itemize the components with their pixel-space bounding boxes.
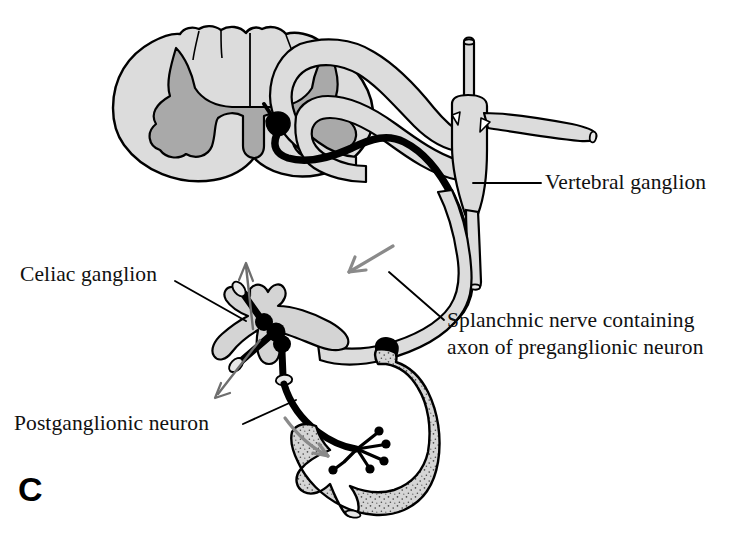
stomach-body [291, 345, 439, 517]
bouton-5 [328, 465, 337, 474]
trunk-upper-cut-end [464, 39, 474, 44]
autonomic-pathway-figure: Vertebral ganglion Celiac ganglion Splan… [0, 0, 739, 534]
postganglionic-axon-3 [282, 352, 283, 376]
diagram-canvas: Vertebral ganglion Celiac ganglion Splan… [0, 0, 739, 534]
label-splanchnic-nerve-line1: Splanchnic nerve containing [447, 308, 695, 332]
leader-splanchnic-nerve [389, 272, 444, 320]
label-celiac-ganglion: Celiac ganglion [20, 262, 157, 286]
stomach [291, 338, 439, 519]
vertebral-ganglion [452, 38, 597, 290]
bouton-1 [374, 426, 383, 435]
terminal-branch-5 [336, 449, 357, 468]
panel-letter: C [18, 470, 43, 508]
bouton-2 [381, 439, 390, 448]
celiac-ganglion [212, 279, 348, 386]
spinal-nerve-lateral-branch [484, 113, 596, 141]
label-vertebral-ganglion: Vertebral ganglion [545, 170, 706, 194]
terminal-boutons [328, 426, 390, 474]
bouton-4 [365, 464, 374, 473]
splanchnic-flow-arrow [349, 246, 393, 272]
label-postganglionic-neuron: Postganglionic neuron [14, 411, 209, 435]
bouton-3 [379, 456, 388, 465]
lateral-branch-cut-end [589, 131, 597, 143]
label-splanchnic-nerve-line2: axon of preganglionic neuron [447, 335, 704, 359]
